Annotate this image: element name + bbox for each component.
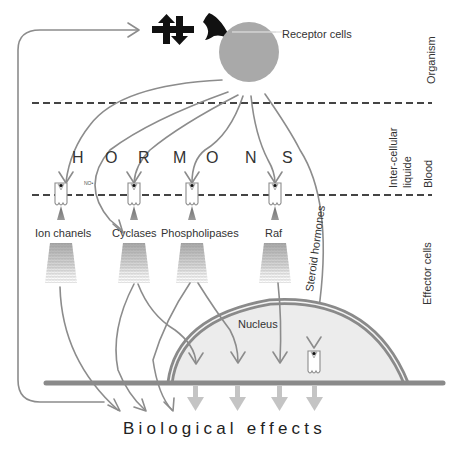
no-radical-label: NO• xyxy=(84,180,94,186)
hormons-label: H O R M O N S xyxy=(72,149,293,166)
receptor-ion-chanels xyxy=(55,183,67,220)
biological-effects-label: Biological effects xyxy=(123,419,326,438)
blood-label: Blood xyxy=(422,160,434,188)
output-arrows xyxy=(187,386,323,411)
effector-label-ion-chanels: Ion chanels xyxy=(35,227,92,239)
svg-text:H: H xyxy=(72,149,84,166)
inter-cellular-label: Inter-cellular xyxy=(387,127,399,188)
svg-text:M: M xyxy=(173,149,186,166)
bidirectional-arrows-icon xyxy=(152,14,194,45)
receptor-cells-circle xyxy=(219,22,279,82)
effector-label-phospholipases: Phospholipases xyxy=(161,227,239,239)
liquide-label: liquide xyxy=(401,156,413,188)
effector-label-cyclases: Cyclases xyxy=(112,227,157,239)
organism-label: Organism xyxy=(425,36,437,84)
receptor-cyclases xyxy=(128,183,140,220)
svg-text:O: O xyxy=(105,149,117,166)
hormone-signaling-diagram: Receptor cells Organism H O R M O N S NO… xyxy=(0,0,459,452)
receptor-raf xyxy=(269,183,281,220)
effector-cells-label: Effector cells xyxy=(421,242,433,305)
effector-label-raf: Raf xyxy=(265,227,283,239)
nucleus-label: Nucleus xyxy=(238,318,278,330)
nucleus xyxy=(170,301,406,383)
receptor-cells-label: Receptor cells xyxy=(282,28,352,40)
receptor-phospholipases xyxy=(186,183,198,220)
svg-text:O: O xyxy=(206,149,218,166)
svg-text:N: N xyxy=(245,149,257,166)
feedback-loop-arrow xyxy=(18,30,138,402)
receptor-steroid xyxy=(308,351,320,373)
svg-text:R: R xyxy=(138,149,150,166)
svg-text:S: S xyxy=(282,149,293,166)
